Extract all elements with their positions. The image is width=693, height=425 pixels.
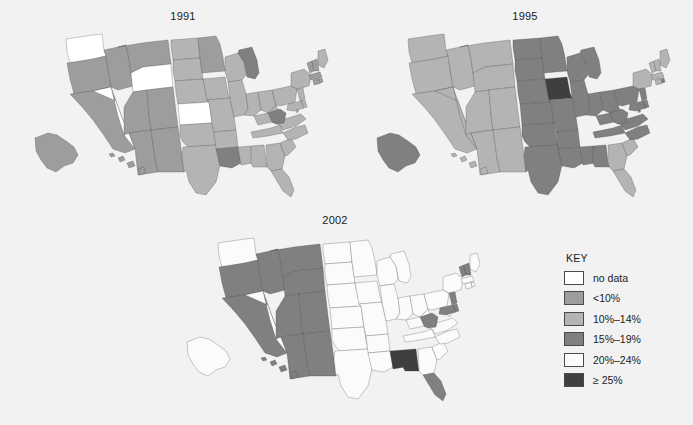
state-ny: [443, 273, 463, 293]
legend-item: 10%–14%: [564, 310, 684, 327]
state-al: [403, 349, 419, 371]
state-mn: [540, 36, 567, 73]
state-me: [318, 49, 328, 68]
legend-label: no data: [593, 272, 628, 284]
legend-swatch: [564, 332, 584, 346]
state-ok: [332, 327, 368, 351]
state-la: [558, 147, 583, 168]
legend-label: ≥ 25%: [593, 374, 623, 386]
state-ia: [355, 281, 382, 304]
state-nj: [639, 88, 647, 101]
state-dc: [296, 110, 299, 113]
state-tx: [524, 145, 562, 195]
legend-swatch: [564, 353, 584, 367]
state-sd: [325, 262, 355, 285]
legend-label: 20%–24%: [593, 354, 641, 366]
state-al: [251, 145, 267, 167]
state-tn: [251, 125, 283, 138]
state-co: [299, 291, 330, 334]
state-dc: [638, 110, 641, 113]
map-title-1991: 1991: [18, 10, 348, 22]
map-panel-1995: 1995: [360, 10, 690, 205]
legend-item: no data: [564, 269, 684, 286]
state-ut: [124, 90, 151, 135]
state-ut: [466, 90, 493, 135]
legend-rows: no data<10%10%–14%15%–19%20%–24%≥ 25%: [564, 269, 684, 389]
state-ak: [35, 133, 78, 172]
state-ny: [633, 69, 653, 89]
state-sd: [173, 58, 203, 81]
state-fl: [423, 373, 446, 401]
state-tx: [182, 145, 220, 195]
state-ar: [556, 130, 580, 149]
state-mn: [198, 36, 225, 73]
state-fl: [613, 169, 636, 197]
us-map-1995: [360, 27, 690, 205]
legend-item: <10%: [564, 290, 684, 307]
legend-swatch: [564, 291, 584, 305]
state-co: [147, 87, 178, 130]
state-nd: [171, 38, 200, 60]
state-al: [593, 145, 609, 167]
legend-item: ≥ 25%: [564, 372, 684, 389]
legend-label: 15%–19%: [593, 333, 641, 345]
state-ks: [330, 306, 364, 329]
state-nd: [323, 242, 352, 264]
state-ct: [655, 79, 662, 86]
state-la: [368, 351, 393, 372]
state-ut: [276, 294, 303, 339]
state-dc: [448, 314, 451, 317]
state-tn: [403, 329, 435, 342]
legend-title: KEY: [566, 252, 684, 264]
state-me: [470, 253, 480, 272]
state-nj: [297, 88, 305, 101]
legend-swatch: [564, 271, 584, 285]
map-title-2002: 2002: [170, 214, 500, 226]
state-tn: [593, 125, 625, 138]
us-map-2002: [170, 231, 500, 409]
legend-label: 10%–14%: [593, 313, 641, 325]
legend-label: <10%: [593, 292, 620, 304]
state-ny: [291, 69, 311, 89]
state-sd: [515, 58, 545, 81]
state-tx: [334, 349, 372, 399]
state-ct: [313, 79, 320, 86]
state-ks: [178, 102, 212, 125]
legend-swatch: [564, 312, 584, 326]
state-nj: [449, 292, 457, 305]
state-ar: [366, 334, 390, 353]
legend-item: 20%–24%: [564, 351, 684, 368]
map-panel-1991: 1991: [18, 10, 348, 205]
state-ok: [522, 123, 558, 147]
state-ia: [545, 77, 572, 100]
state-ia: [203, 77, 230, 100]
legend-item: 15%–19%: [564, 331, 684, 348]
state-ar: [214, 130, 238, 149]
legend: KEY no data<10%10%–14%15%–19%20%–24%≥ 25…: [564, 252, 684, 392]
state-mn: [350, 240, 377, 277]
us-map-1991: [18, 27, 348, 205]
state-ak: [187, 337, 230, 376]
state-ok: [180, 123, 216, 147]
state-ak: [377, 133, 420, 172]
state-la: [216, 147, 241, 168]
state-ks: [520, 102, 554, 125]
legend-swatch: [564, 373, 584, 387]
state-me: [660, 49, 670, 68]
map-panel-2002: 2002: [170, 214, 500, 409]
state-fl: [271, 169, 294, 197]
state-ct: [465, 283, 472, 290]
figure-canvas: 1991 1995 2002 KEY no data<10%10%–14%15%…: [0, 0, 693, 425]
state-nd: [513, 38, 542, 60]
map-title-1995: 1995: [360, 10, 690, 22]
state-co: [489, 87, 520, 130]
